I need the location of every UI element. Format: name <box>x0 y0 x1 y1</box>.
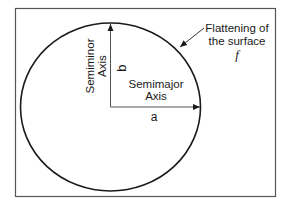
semiminor-line-2: Axis <box>96 31 108 101</box>
a-label: a <box>148 111 160 123</box>
semimajor-axis-label: Semimajor Axis <box>122 78 190 102</box>
f-symbol: f <box>201 48 273 61</box>
flattening-label: Flattening of the surface f <box>201 22 273 61</box>
semimajor-line-1: Semimajor <box>122 78 190 90</box>
semimajor-line-2: Axis <box>122 90 190 102</box>
flattening-line-1: Flattening of <box>201 22 273 35</box>
semiminor-axis-label: Semiminor Axis <box>84 31 110 101</box>
b-label: b <box>116 62 128 74</box>
semiminor-line-1: Semiminor <box>84 31 96 101</box>
